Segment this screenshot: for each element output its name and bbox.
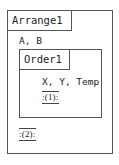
order-step-marker: :(1): bbox=[42, 91, 59, 104]
arrange-step-marker: :(2): bbox=[19, 128, 36, 141]
marker-underline bbox=[19, 140, 36, 141]
order-block: Order1 X, Y, Temp :(1): bbox=[19, 49, 102, 118]
arrange-title: Arrange1 bbox=[8, 11, 72, 31]
order-params: X, Y, Temp bbox=[42, 76, 99, 87]
marker-underline bbox=[42, 103, 59, 104]
order-step-label: :(1): bbox=[42, 92, 59, 103]
arrange-step-label: :(2): bbox=[19, 129, 36, 140]
arrange-block: Arrange1 A, B Order1 X, Y, Temp :(1): :(… bbox=[7, 10, 113, 154]
order-title: Order1 bbox=[20, 50, 70, 70]
arrange-params: A, B bbox=[19, 35, 42, 46]
